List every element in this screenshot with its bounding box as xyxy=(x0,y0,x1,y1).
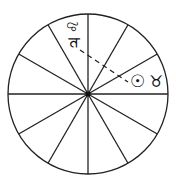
taurus-icon: ♉ xyxy=(149,74,163,90)
center-dot xyxy=(86,92,91,97)
astrology-wheel xyxy=(0,0,176,188)
leo-icon: ♌ xyxy=(66,20,81,33)
sun-icon: ☉ xyxy=(130,73,145,90)
jupiter-icon: ♃ xyxy=(67,36,83,50)
aspect-line xyxy=(80,50,128,82)
